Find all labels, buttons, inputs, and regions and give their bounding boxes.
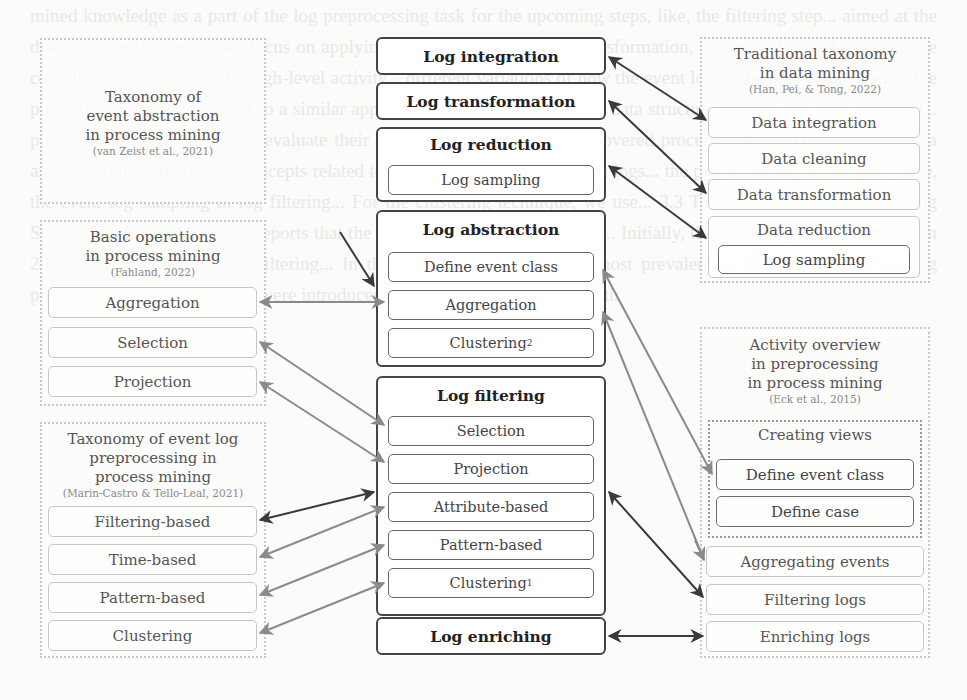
center-log-reduction: Log reduction Log sampling (376, 127, 606, 202)
left-item-pattern-based: Pattern-based (48, 582, 257, 613)
left-item-projection: Projection (48, 366, 257, 397)
left-item-time-based: Time-based (48, 544, 257, 575)
center-log-enriching: Log enriching (376, 617, 606, 655)
left-item-selection: Selection (48, 327, 257, 358)
right-item-data-integration: Data integration (708, 107, 920, 138)
right-item-log-sampling: Log sampling (718, 245, 910, 274)
log-integration-label: Log integration (423, 47, 558, 66)
log-reduction-title: Log reduction (378, 135, 604, 154)
right-item-aggregating-events: Aggregating events (706, 546, 924, 577)
log-filtering-item-selection: Selection (388, 416, 594, 446)
right-item-data-transformation: Data transformation (708, 179, 920, 210)
log-reduction-item-log-sampling: Log sampling (388, 165, 594, 195)
panel-title: Basic operations in process mining (42, 228, 264, 266)
log-filtering-item-projection: Projection (388, 454, 594, 484)
clustering-label: Clustering (450, 575, 527, 591)
panel-citation: (Eck et al., 2015) (702, 393, 928, 406)
center-log-filtering: Log filtering Selection Projection Attri… (376, 376, 606, 616)
log-filtering-title: Log filtering (378, 386, 604, 405)
panel-title: Taxonomy of event log preprocessing in p… (42, 430, 264, 487)
log-abstraction-item-clustering: Clustering2 (388, 328, 594, 358)
panel-citation: (van Zeist et al., 2021) (42, 145, 264, 158)
left-item-clustering: Clustering (48, 620, 257, 651)
panel-citation: (Marin-Castro & Tello-Leal, 2021) (42, 487, 264, 500)
right-item-define-event-class: Define event class (716, 459, 914, 490)
log-filtering-item-pattern-based: Pattern-based (388, 530, 594, 560)
panel-title: Activity overview in preprocessing in pr… (702, 336, 928, 393)
center-log-transformation: Log transformation (376, 82, 606, 120)
log-transformation-label: Log transformation (406, 92, 575, 111)
log-abstraction-item-define-event-class: Define event class (388, 252, 594, 282)
log-enriching-label: Log enriching (430, 627, 551, 646)
log-abstraction-title: Log abstraction (378, 220, 604, 239)
log-abstraction-item-aggregation: Aggregation (388, 290, 594, 320)
left-item-filtering-based: Filtering-based (48, 506, 257, 537)
clustering-label: Clustering (450, 335, 527, 351)
right-item-filtering-logs: Filtering logs (706, 584, 924, 615)
center-log-integration: Log integration (376, 37, 606, 75)
panel-title: Traditional taxonomy in data mining (702, 45, 928, 83)
creating-views-title: Creating views (710, 426, 920, 445)
center-log-abstraction: Log abstraction Define event class Aggre… (376, 210, 606, 367)
right-item-define-case: Define case (716, 496, 914, 527)
right-item-enriching-logs: Enriching logs (706, 621, 924, 652)
panel-citation: (Fahland, 2022) (42, 266, 264, 279)
panel-event-abstraction-taxonomy: Taxonomy of event abstraction in process… (40, 38, 266, 204)
data-reduction-label: Data reduction (757, 221, 871, 239)
right-item-data-cleaning: Data cleaning (708, 143, 920, 174)
panel-citation: (Han, Pei, & Tong, 2022) (702, 83, 928, 96)
log-filtering-item-attribute-based: Attribute-based (388, 492, 594, 522)
log-filtering-item-clustering: Clustering1 (388, 568, 594, 598)
panel-title: Taxonomy of event abstraction in process… (42, 88, 264, 145)
left-item-aggregation: Aggregation (48, 287, 257, 318)
